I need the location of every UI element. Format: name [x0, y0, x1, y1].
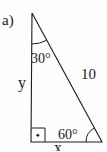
base-angle-arc	[86, 128, 94, 142]
side-y-label: y	[18, 74, 26, 92]
triangle-diagram: a) 30° 10 y 60° x	[0, 0, 107, 151]
item-label: a)	[2, 12, 14, 29]
side-x-label: x	[54, 139, 62, 152]
geometry-figure: a) 30° 10 y 60° x	[0, 0, 107, 151]
right-angle-dot	[36, 134, 39, 137]
apex-angle-label: 30°	[31, 51, 51, 66]
apex-angle-arc	[32, 40, 47, 44]
hypotenuse-label: 10	[81, 66, 96, 82]
